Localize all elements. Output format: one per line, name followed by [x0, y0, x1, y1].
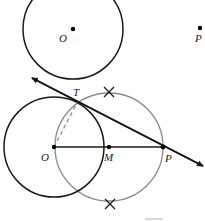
point-m: [107, 145, 111, 149]
top-center-point: [71, 27, 75, 31]
radius-ot-dashed: [54, 101, 78, 147]
top-point-p: [198, 26, 202, 30]
label-t: T: [73, 86, 80, 98]
label-m: M: [103, 151, 114, 163]
label-p: P: [164, 152, 172, 164]
top-center-label: O: [59, 32, 67, 44]
tangent-line-arrow-right: [32, 78, 203, 166]
point-o: [52, 145, 56, 149]
label-o: O: [41, 151, 49, 163]
top-figure: O P: [23, 0, 202, 79]
bottom-figure: T O M P: [4, 78, 203, 209]
geometry-diagram: O P T O M P: [0, 0, 205, 221]
top-circle-o: [23, 0, 123, 79]
arc-mark-top-icon: [104, 87, 114, 97]
point-p: [161, 145, 166, 150]
top-point-p-label: P: [194, 32, 202, 44]
